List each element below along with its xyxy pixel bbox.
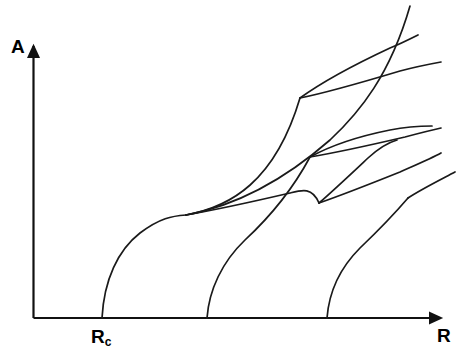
curve-primary-branch-3 <box>327 198 408 318</box>
curve-lower-left-long-branch <box>186 191 319 215</box>
curve-branch-3-extension <box>408 172 455 198</box>
curve-primary-branch-2-lower-secondary <box>319 153 441 203</box>
curve-group <box>102 6 455 318</box>
critical-point-symbol: R <box>91 326 105 347</box>
plot-canvas <box>0 0 465 354</box>
x-axis-label: R <box>437 326 451 345</box>
axes-group <box>34 46 442 318</box>
bifurcation-diagram-figure: A R Rc <box>0 0 465 354</box>
critical-point-subscript: c <box>105 335 112 349</box>
curve-primary-branch-2 <box>207 157 310 318</box>
y-axis-label: A <box>11 37 25 56</box>
critical-point-label: Rc <box>91 327 111 346</box>
curve-primary-branch-1 <box>102 215 186 318</box>
curve-branch-1a-after-secondary-2 <box>300 35 418 98</box>
curve-branch-1-upper-after-secondary-1 <box>186 6 410 215</box>
curve-branch-secondary-4-upper <box>319 140 397 203</box>
